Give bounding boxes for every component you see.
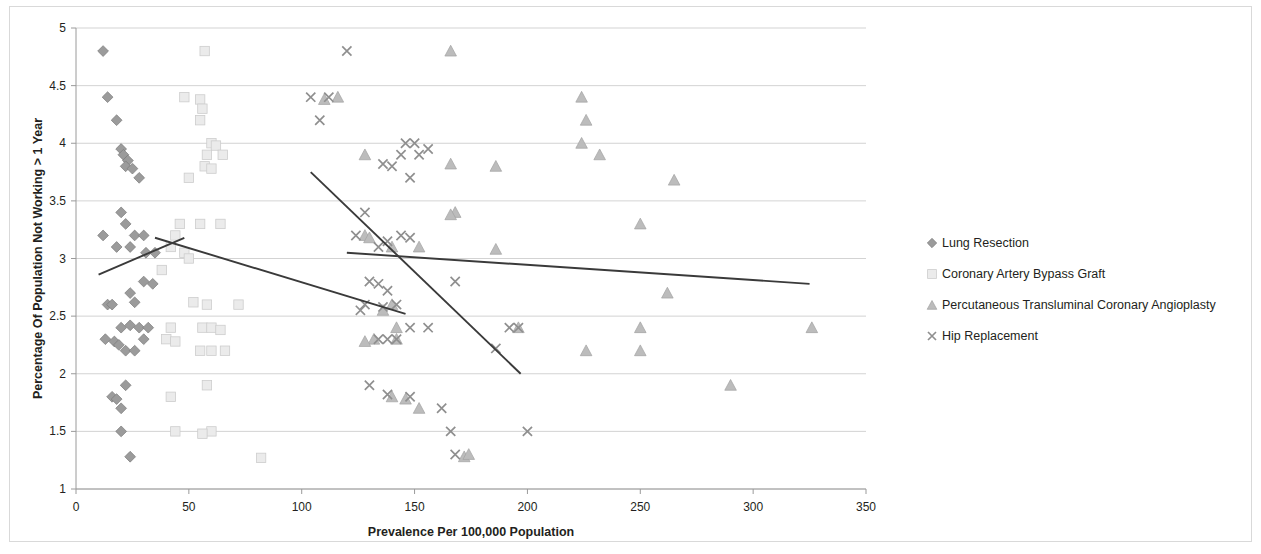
axis-titles-group: Prevalence Per 100,000 Population Percen… — [31, 118, 574, 539]
data-point-square — [202, 381, 211, 390]
data-point-cross — [414, 150, 423, 159]
data-point-triangle — [580, 114, 592, 125]
data-point-diamond — [143, 322, 154, 333]
data-point-diamond — [98, 46, 109, 57]
data-point-diamond — [125, 451, 136, 462]
data-point-square — [256, 453, 265, 462]
data-point-triangle — [668, 174, 680, 185]
trendlines-group — [99, 172, 810, 374]
data-point-square — [198, 323, 207, 332]
data-point-diamond — [116, 207, 127, 218]
data-point-square — [171, 427, 180, 436]
data-point-square — [220, 346, 229, 355]
data-point-cross — [356, 306, 365, 315]
trendline — [347, 253, 810, 284]
cross-marker-icon — [925, 329, 939, 343]
data-point-triangle — [413, 403, 425, 414]
data-point-square — [200, 46, 209, 55]
data-point-cross — [405, 173, 414, 182]
y-tick-label: 2 — [59, 367, 66, 381]
data-point-square — [234, 300, 243, 309]
y-tick-label: 2.5 — [49, 309, 66, 323]
data-point-triangle — [386, 391, 398, 402]
data-point-square — [207, 346, 216, 355]
data-point-diamond — [147, 278, 158, 289]
legend-item-lung-resection[interactable]: Lung Resection — [925, 228, 1250, 258]
y-tick-label: 4 — [59, 136, 66, 150]
data-point-triangle — [490, 161, 502, 172]
data-point-diamond — [125, 242, 136, 253]
legend-item-hip-replacement[interactable]: Hip Replacement — [925, 321, 1250, 351]
data-point-cross — [365, 381, 374, 390]
legend-label: Coronary Artery Bypass Graft — [942, 267, 1105, 281]
triangle-marker-icon — [925, 298, 939, 312]
data-point-cross — [383, 286, 392, 295]
data-point-cross — [437, 404, 446, 413]
data-point-cross — [387, 162, 396, 171]
diamond-marker-icon — [925, 236, 939, 250]
data-point-cross — [351, 231, 360, 240]
chart-legend: Lung Resection Coronary Artery Bypass Gr… — [925, 228, 1250, 352]
legend-item-coronary-artery-bypass-graft[interactable]: Coronary Artery Bypass Graft — [925, 259, 1250, 289]
data-point-cross — [424, 144, 433, 153]
data-point-cross — [383, 237, 392, 246]
data-point-diamond — [138, 334, 149, 345]
data-point-square — [195, 219, 204, 228]
data-point-cross — [491, 344, 500, 353]
data-point-diamond — [100, 334, 111, 345]
trendline — [311, 172, 521, 374]
series-triangle — [318, 45, 817, 461]
data-point-triangle — [725, 379, 737, 390]
data-point-square — [162, 334, 171, 343]
data-point-diamond — [134, 172, 145, 183]
x-tick-label: 200 — [517, 500, 537, 514]
data-point-square — [195, 116, 204, 125]
data-point-square — [218, 150, 227, 159]
x-tick-label: 150 — [405, 500, 425, 514]
data-point-cross — [378, 159, 387, 168]
data-point-diamond — [138, 230, 149, 241]
data-point-square — [166, 323, 175, 332]
x-tick-label: 300 — [743, 500, 763, 514]
data-point-triangle — [391, 322, 403, 333]
series-diamond — [98, 46, 161, 462]
x-tick-label: 350 — [856, 500, 876, 514]
legend-item-percutaneous-transluminal-coronary-angioplasty[interactable]: Percutaneous Transluminal Coronary Angio… — [925, 290, 1250, 320]
data-point-diamond — [138, 276, 149, 287]
data-point-diamond — [125, 288, 136, 299]
data-point-cross — [360, 208, 369, 217]
data-point-diamond — [111, 115, 122, 126]
data-point-square — [171, 337, 180, 346]
data-point-cross — [374, 242, 383, 251]
data-point-cross — [505, 323, 514, 332]
data-point-cross — [396, 150, 405, 159]
data-point-diamond — [116, 403, 127, 414]
data-point-triangle — [359, 149, 371, 160]
data-point-triangle — [359, 336, 371, 347]
data-point-cross — [306, 93, 315, 102]
data-point-cross — [405, 323, 414, 332]
data-point-triangle — [576, 91, 588, 102]
data-point-triangle — [400, 393, 412, 404]
data-point-square — [184, 173, 193, 182]
square-marker-icon — [925, 267, 939, 281]
x-axis-title: Prevalence Per 100,000 Population — [368, 525, 574, 539]
data-point-square — [198, 104, 207, 113]
data-point-cross — [405, 233, 414, 242]
data-point-square — [175, 219, 184, 228]
x-tick-label: 250 — [630, 500, 650, 514]
data-point-cross — [383, 335, 392, 344]
y-axis-title: Percentage Of Population Not Working > 1… — [31, 118, 45, 399]
data-point-diamond — [120, 219, 131, 230]
y-tick-label: 4.5 — [49, 79, 66, 93]
data-point-square — [195, 346, 204, 355]
gridlines-group — [76, 28, 866, 489]
data-point-triangle — [445, 45, 457, 56]
data-point-square — [180, 92, 189, 101]
data-point-triangle — [445, 158, 457, 169]
data-point-square — [207, 164, 216, 173]
data-point-cross — [424, 323, 433, 332]
legend-label: Percutaneous Transluminal Coronary Angio… — [942, 298, 1216, 312]
data-point-cross — [396, 231, 405, 240]
data-point-diamond — [129, 297, 140, 308]
